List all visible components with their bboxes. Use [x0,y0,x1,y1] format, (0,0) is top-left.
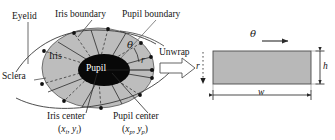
iris-center-label: Iris center [47,112,85,122]
pupil-boundary-label: Pupil boundary [122,10,180,20]
radius-label: r [141,56,145,66]
iris-unwrap-figure: Eyelid Iris boundary Pupil boundary Scle… [0,0,335,140]
unwrap-label: Unwrap [159,48,190,58]
paren-close: ) [78,124,81,134]
iris-boundary-label: Iris boundary [55,10,106,20]
rect-width-label: w [258,88,264,98]
pupil-label: Pupil [86,64,106,74]
eyelid-label: Eyelid [12,12,37,22]
radius-endpoint-dot [150,68,154,72]
iris-label: Iris [49,52,62,62]
unwrapped-rectangle-group [213,41,325,100]
rect-theta-label: θ [250,29,256,39]
unwrap-arrow [160,58,195,78]
iris-center-coordinates: (xi, yi) [58,125,81,135]
radial-axis-label: r [196,62,200,72]
sclera-label: Sclera [2,72,26,82]
radial-axis-marker [200,52,205,84]
pupil-center-coordinates: (xp, yp) [122,125,148,135]
theta-angle-label: θ [127,40,133,50]
rect-height-label: h [323,62,328,72]
pupil-center-label: Pupil center [113,112,159,122]
unwrapped-iris-rect [213,51,311,84]
paren-close: ) [145,124,148,134]
